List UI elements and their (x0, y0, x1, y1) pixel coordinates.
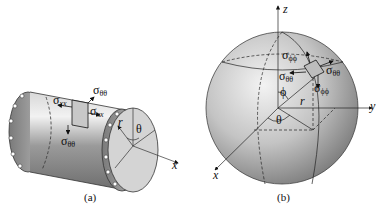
label-axis-y: y (370, 100, 375, 112)
caption-a: (a) (84, 192, 96, 203)
sphere-figure (206, 6, 372, 184)
label-theta-a: θ (136, 123, 142, 135)
label-sigma-theta-theta-right: σθθ (326, 64, 340, 78)
label-radius-a: r (118, 116, 123, 128)
label-axis-x-b: x (213, 169, 218, 181)
label-theta-b: θ (276, 114, 282, 126)
label-sigma-theta-theta-bottom: σθθ (61, 135, 75, 149)
label-sigma-xx-left: σxx (53, 94, 67, 108)
label-sigma-theta-theta-left: σθθ (279, 70, 293, 84)
label-axis-x-a: x (172, 159, 177, 171)
label-axis-z: z (283, 3, 288, 15)
label-sigma-phi-phi-bottom: σϕϕ (314, 82, 329, 96)
label-radius-b: r (300, 95, 305, 107)
label-sigma-theta-theta-top: σθθ (93, 84, 107, 98)
label-sigma-phi-phi-top: σϕϕ (282, 49, 297, 63)
label-phi: ϕ (280, 86, 286, 98)
label-sigma-xx-right: σxx (90, 105, 104, 119)
caption-b: (b) (277, 192, 290, 203)
